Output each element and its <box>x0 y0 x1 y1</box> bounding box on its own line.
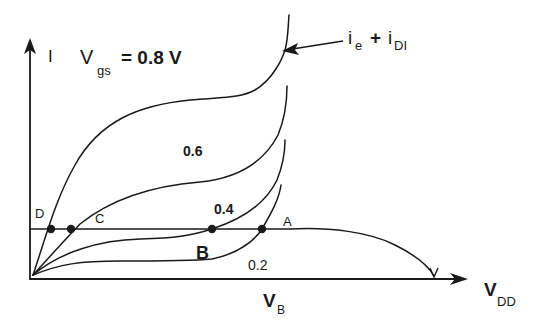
curve-label-0.6: 0.6 <box>183 143 203 159</box>
annotation-ie-main: i <box>348 27 352 48</box>
curve-vgs-0.4 <box>33 140 285 275</box>
curve-vgs-0.6 <box>33 86 287 275</box>
x-axis-label-main: V <box>484 279 497 300</box>
annotation-label: i e + i DI <box>348 27 407 53</box>
mosfet-iv-diagram: I V gs = 0.8 V i e + i DI 0.6 0.4 0.2 D … <box>0 0 535 333</box>
point-B-label: B <box>196 243 209 263</box>
curve-label-0.4: 0.4 <box>214 201 234 217</box>
point-A-dot <box>258 225 266 233</box>
vgs-label-main: V <box>80 46 94 68</box>
x-axis-label-sub: DD <box>497 294 516 309</box>
vgs-label-value: = 0.8 V <box>121 47 182 68</box>
vgs-label: V gs = 0.8 V <box>80 46 182 78</box>
annotation-idi-sub: DI <box>394 38 407 53</box>
x-axis-label: V DD <box>484 279 516 309</box>
vb-label: V B <box>263 290 285 317</box>
annotation-ie-sub: e <box>355 38 362 53</box>
vgs-label-sub: gs <box>97 63 111 78</box>
point-A-label: A <box>283 214 292 229</box>
point-C-label: C <box>95 211 104 226</box>
y-axis-label: I <box>48 47 53 66</box>
point-D-dot <box>47 225 55 233</box>
point-C-dot <box>67 225 75 233</box>
vb-label-main: V <box>263 290 276 311</box>
curve-label-0.2: 0.2 <box>248 257 268 273</box>
annotation-idi-main: i <box>388 27 392 48</box>
vb-label-sub: B <box>277 303 285 317</box>
point-D-label: D <box>35 206 44 221</box>
annotation-plus: + <box>370 27 381 48</box>
point-B-dot <box>208 225 216 233</box>
